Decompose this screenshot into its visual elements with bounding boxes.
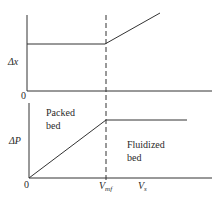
x-axis-label: Vs (138, 181, 147, 192)
fluidization-diagram (0, 0, 224, 204)
bed-height-curve (27, 13, 160, 44)
packed-bed-label-line2: bed (46, 121, 60, 131)
vs-subscript: s (144, 185, 147, 193)
top-origin-label: 0 (21, 91, 26, 101)
vmf-subscript: mf (105, 185, 112, 193)
bottom-y-label: ΔP (9, 136, 21, 146)
vmf-tick-label: Vmf (99, 181, 112, 192)
bottom-origin-label: 0 (24, 180, 29, 190)
top-y-label: Δx (8, 57, 18, 67)
fluidized-bed-label-line2: bed (127, 153, 141, 163)
packed-bed-label-line1: Packed (46, 108, 75, 118)
fluidized-bed-label-line1: Fluidized (127, 140, 165, 150)
